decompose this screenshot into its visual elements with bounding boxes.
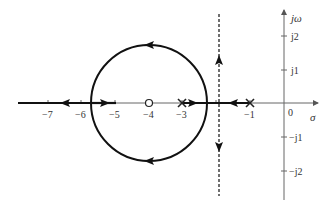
tick-label: −1 (244, 109, 255, 120)
arrow-up-icon (215, 55, 223, 65)
tick-label: −j1 (289, 132, 302, 143)
arrow-down-icon (215, 142, 223, 152)
root-locus-diagram: −7 −6 −5 −4 −3 −1 0 σ jω j2 j1 −j1 −j2 (0, 0, 332, 208)
origin-label: 0 (288, 107, 293, 118)
tick-label: −3 (176, 109, 187, 120)
asymptote-dashed (215, 14, 223, 196)
jomega-axis-label: jω (289, 12, 302, 24)
tick-label: −5 (109, 109, 120, 120)
tick-label: j1 (290, 65, 299, 76)
imaginary-axis (281, 10, 287, 200)
zero-marker (146, 100, 153, 107)
tick-label: −j2 (289, 166, 302, 177)
tick-label: −6 (75, 109, 86, 120)
locus-real-axis-left (18, 99, 116, 107)
sigma-axis-label: σ (310, 111, 316, 123)
tick-label: j2 (290, 31, 299, 42)
tick-label: −4 (143, 109, 154, 120)
tick-label: −7 (42, 109, 53, 120)
